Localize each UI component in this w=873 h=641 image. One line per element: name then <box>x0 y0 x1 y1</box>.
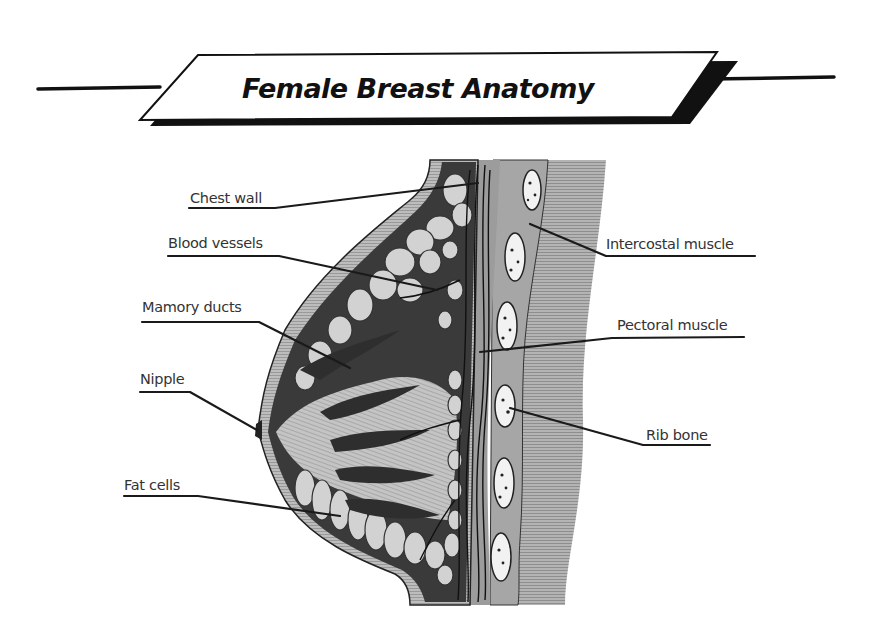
label-fat-cells: Fat cells <box>124 477 180 493</box>
callout-nipple: Nipple <box>140 371 257 430</box>
label-rib-bone: Rib bone <box>646 427 708 443</box>
breast-anatomy-diagram: Female Breast Anatomy <box>0 0 873 641</box>
anatomy-illustration <box>255 160 606 605</box>
label-intercostal-muscle: Intercostal muscle <box>606 236 734 252</box>
title-rule-right <box>710 77 834 79</box>
rib-bone-shape <box>495 385 515 427</box>
rib-bone-shape <box>497 302 517 350</box>
rib-bone-shape <box>491 533 511 581</box>
label-mamory-ducts: Mamory ducts <box>142 299 242 315</box>
title-rule-left <box>38 87 160 89</box>
leader-nipple <box>140 392 257 430</box>
label-chest-wall: Chest wall <box>190 190 262 206</box>
rib-bone-shape <box>494 458 514 508</box>
page-title: Female Breast Anatomy <box>242 73 596 104</box>
label-blood-vessels: Blood vessels <box>168 235 263 251</box>
rib-bone-shape <box>505 233 525 281</box>
title-banner: Female Breast Anatomy <box>38 52 834 126</box>
label-pectoral-muscle: Pectoral muscle <box>617 317 728 333</box>
label-nipple: Nipple <box>140 371 185 387</box>
rib-bone-shape <box>523 170 541 210</box>
